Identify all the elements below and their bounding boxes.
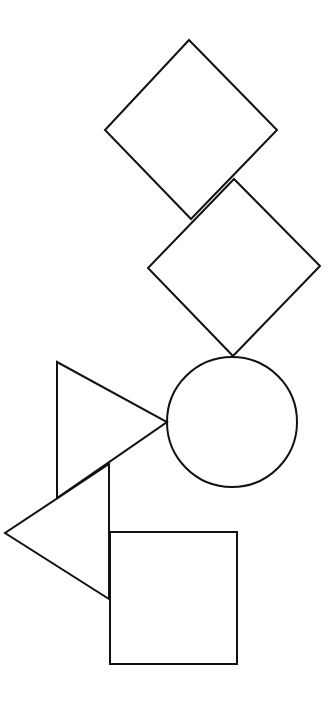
triangle-right-pointing (57, 362, 167, 498)
square (110, 532, 237, 664)
diamond-top (105, 40, 277, 219)
shapes-diagram (0, 0, 334, 701)
circle (167, 357, 297, 487)
diamond-middle (148, 179, 320, 356)
